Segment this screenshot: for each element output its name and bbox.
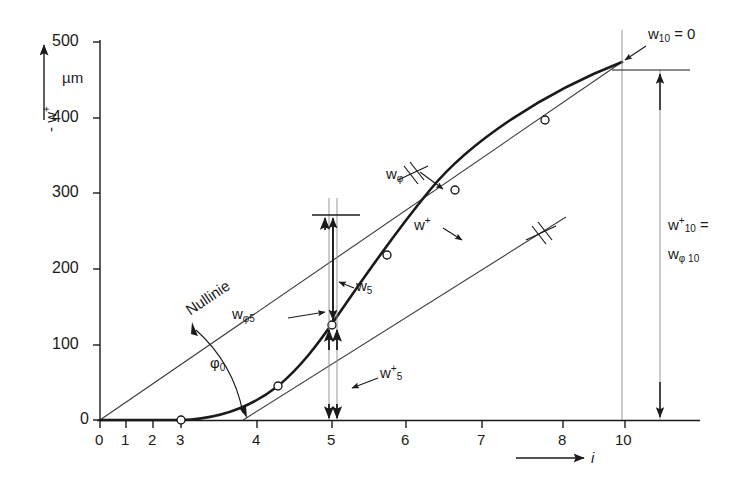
y-tick-500: 500 (52, 33, 79, 49)
w-phi-reference-line (243, 217, 566, 420)
w10-plus-equals: = (700, 216, 709, 233)
w-phi-label: wφ (386, 166, 403, 184)
w5-label: w5 (356, 278, 372, 296)
w10-zero-subscript: 10 (659, 33, 670, 44)
w-phi5-label: wφ5 (232, 306, 255, 324)
w5-subscript: 5 (367, 285, 373, 296)
y-tick-200: 200 (52, 260, 79, 276)
w10-zero-symbol: w (648, 25, 659, 42)
y-axis-unit: µm (62, 70, 83, 85)
x-tick-8: 8 (558, 432, 566, 447)
w-plus-symbol: w (414, 216, 425, 233)
y-axis-label-text: - w (42, 112, 59, 132)
y-tick-0: 0 (80, 411, 89, 427)
leader-lines (288, 46, 646, 388)
w-phi5-subscript: φ5 (243, 313, 255, 324)
x-tick-6: 6 (401, 432, 409, 447)
w5-plus-symbol: w (380, 364, 391, 381)
w-phi10-subscript: φ 10 (679, 253, 699, 264)
figure-canvas: 500 400 300 200 100 0 µm - w+ 0 1 2 3 4 … (0, 0, 739, 486)
w5-plus-subscript: 5 (397, 371, 403, 382)
diagram-svg (0, 0, 739, 486)
data-point-markers (177, 116, 549, 424)
w5-plus-label: w+5 (380, 364, 402, 382)
w-phi-symbol: w (386, 165, 397, 182)
x-axis (97, 420, 700, 428)
w10-zero-equals: = 0 (674, 25, 695, 42)
measure-station-i5 (312, 198, 360, 420)
w10-plus-line2: wφ 10 (668, 246, 699, 264)
x-tick-4: 4 (252, 432, 260, 447)
x-tick-0: 0 (95, 432, 103, 447)
phi0-label: φ0 (210, 355, 225, 373)
y-tick-300: 300 (52, 184, 79, 200)
w-phi-subscript: φ (397, 173, 403, 184)
x-tick-7: 7 (477, 432, 485, 447)
x-tick-5: 5 (327, 432, 335, 447)
w-phi5-symbol: w (232, 305, 243, 322)
w-phi10-symbol: w (668, 245, 679, 262)
y-tick-100: 100 (52, 336, 79, 352)
x-axis-label: i (591, 450, 594, 465)
w10-zero-label: w10 = 0 (648, 26, 695, 44)
w10-plus-line1: w+10 = (668, 216, 709, 234)
x-tick-10: 10 (615, 432, 632, 447)
w5-symbol: w (356, 277, 367, 294)
w10-plus-symbol: w (668, 216, 679, 233)
phi0-subscript: 0 (220, 362, 226, 373)
x-tick-2: 2 (148, 432, 156, 447)
y-axis-label: - w+ (42, 106, 58, 132)
y-axis-label-sup: + (41, 106, 52, 112)
w-plus-label: w+ (414, 216, 431, 232)
x-tick-1: 1 (121, 432, 129, 447)
y-axis (93, 40, 100, 421)
phi0-symbol: φ (210, 354, 220, 371)
w-plus-superscript: + (425, 215, 431, 226)
x-tick-3: 3 (176, 432, 184, 447)
w10-plus-subscript: 10 (685, 223, 696, 234)
parallel-mark-reference (526, 222, 556, 244)
